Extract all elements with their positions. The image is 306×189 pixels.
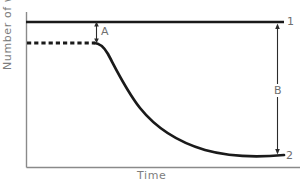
series-2-label: 2 bbox=[286, 150, 293, 161]
x-axis-label: Time bbox=[137, 170, 166, 181]
series-2-decay-curve bbox=[94, 43, 284, 156]
annotation-a-label: A bbox=[101, 26, 109, 37]
chart-canvas bbox=[0, 0, 306, 189]
series-1-label: 1 bbox=[287, 16, 294, 27]
annotation-b-arrowhead-bottom bbox=[275, 149, 280, 155]
figure-container: Number of worms Time A B 1 2 bbox=[0, 0, 306, 189]
annotation-b-label: B bbox=[272, 84, 284, 97]
annotation-b-arrowhead-top bbox=[275, 24, 280, 30]
y-axis-label: Number of worms bbox=[2, 52, 13, 70]
